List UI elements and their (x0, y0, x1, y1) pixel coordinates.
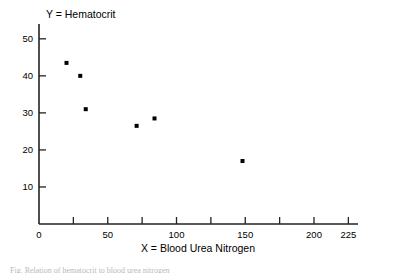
data-point-group (65, 61, 245, 163)
y-tick-label: 20 (22, 144, 33, 155)
data-point-marker (78, 74, 82, 78)
scatter-plot-figure: 1020304050 050100150200225 Y = Hematocri… (0, 0, 403, 273)
y-tick-label: 10 (22, 181, 33, 192)
y-tick-label: 30 (22, 107, 33, 118)
x-tick-label: 50 (102, 229, 113, 240)
data-point-marker (65, 61, 69, 65)
data-point-marker (153, 116, 157, 120)
x-axis-title: X = Blood Urea Nitrogen (141, 242, 255, 254)
data-point-marker (135, 124, 139, 128)
x-tick-label: 0 (36, 229, 41, 240)
data-point-marker (84, 107, 88, 111)
y-axis-ticks: 1020304050 (22, 33, 46, 192)
x-tick-label: 100 (169, 229, 185, 240)
x-tick-label: 225 (340, 229, 356, 240)
data-point-marker (241, 159, 245, 163)
figure-caption-cutoff: Fig. Relation of hematocrit to blood ure… (10, 266, 270, 273)
y-tick-label: 50 (22, 33, 33, 44)
x-axis-ticks: 050100150200225 (36, 217, 356, 240)
y-axis-title: Y = Hematocrit (46, 8, 116, 20)
x-tick-label: 200 (306, 229, 322, 240)
scatter-plot-canvas: 1020304050 050100150200225 Y = Hematocri… (0, 0, 403, 273)
x-tick-label: 150 (237, 229, 253, 240)
y-tick-label: 40 (22, 70, 33, 81)
